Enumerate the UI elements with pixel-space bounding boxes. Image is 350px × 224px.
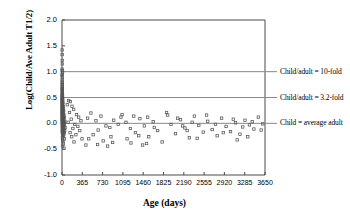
y-tick-label: 0.0 <box>29 118 57 127</box>
x-tick-label: 3650 <box>250 179 280 186</box>
y-tick-label: -0.5 <box>29 144 57 153</box>
y-tick-label: 2.0 <box>29 15 57 24</box>
reference-line-label: Child = average adult <box>280 118 343 127</box>
y-tick-label: 0.5 <box>29 93 57 102</box>
reference-line-label: Child/adult = 10-fold <box>280 67 342 76</box>
plot-canvas <box>0 0 350 224</box>
scatter-chart-figure: Log(Child/Ave Adult T1/2) Age (days) -1.… <box>0 0 350 224</box>
y-tick-label: 1.0 <box>29 67 57 76</box>
y-tick-label: 1.5 <box>29 41 57 50</box>
reference-line-label: Child/adult = 3.2-fold <box>280 93 343 102</box>
data-points <box>61 49 264 150</box>
x-axis-title: Age (days) <box>62 198 267 208</box>
y-tick-label: -1.0 <box>29 170 57 179</box>
reference-lines <box>62 72 277 124</box>
